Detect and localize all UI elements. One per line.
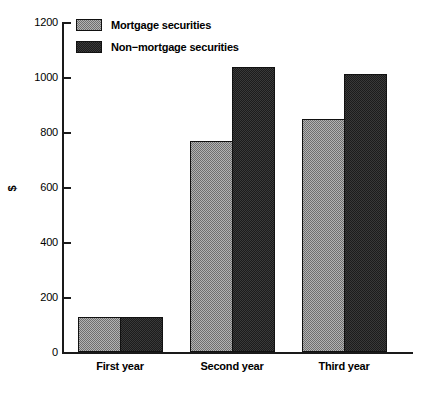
y-tick-label-600: 600: [12, 182, 58, 193]
y-tick-label-200: 200: [12, 292, 58, 303]
y-tick-400: 400: [0, 237, 58, 248]
y-tick-mark-1000: [64, 77, 71, 79]
y-tick-800: 800: [0, 127, 58, 138]
y-tick-mark-200: [64, 297, 71, 299]
y-tick-1000: 1000: [0, 72, 58, 83]
y-tick-mark-800: [64, 132, 71, 134]
y-tick-1200: 1200: [0, 17, 58, 28]
y-tick-mark-600: [64, 187, 71, 189]
x-axis-label-third-year: Third year: [294, 360, 394, 372]
bar-mortgage-first-year: [78, 317, 121, 352]
y-tick-label-1200: 1200: [12, 17, 58, 28]
y-tick-mark-400: [64, 242, 71, 244]
y-tick-0: 0: [0, 347, 58, 358]
chart-legend: Mortgage securities Non−mortgage securit…: [76, 16, 239, 60]
bar-mortgage-second-year: [190, 141, 233, 352]
y-tick-label-0: 0: [12, 347, 58, 358]
bar-non-mortgage-first-year: [120, 317, 163, 352]
y-tick-200: 200: [0, 292, 58, 303]
y-tick-label-400: 400: [12, 237, 58, 248]
y-tick-label-1000: 1000: [12, 72, 58, 83]
bar-non-mortgage-third-year: [344, 74, 387, 352]
legend-item-mortgage-securities: Mortgage securities: [76, 16, 239, 34]
bar-non-mortgage-second-year: [232, 67, 275, 352]
x-axis-label-second-year: Second year: [182, 360, 282, 372]
bar-chart: Mortgage securities Non−mortgage securit…: [0, 0, 433, 394]
x-axis-label-first-year: First year: [70, 360, 170, 372]
legend-swatch-dark-icon: [76, 41, 102, 53]
legend-label-mortgage-securities: Mortgage securities: [111, 19, 211, 31]
legend-swatch-light-icon: [76, 19, 102, 31]
legend-label-non-mortgage-securities: Non−mortgage securities: [111, 41, 239, 53]
bar-mortgage-third-year: [302, 119, 345, 352]
y-tick-600: 600: [0, 182, 58, 193]
y-tick-mark-1200: [64, 22, 71, 24]
legend-item-non-mortgage-securities: Non−mortgage securities: [76, 38, 239, 56]
y-tick-label-800: 800: [12, 127, 58, 138]
x-axis-line: [62, 352, 413, 354]
